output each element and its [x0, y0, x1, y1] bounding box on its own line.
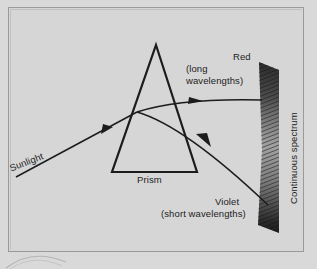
prism-dispersion-figure: Red (long wavelengths) Violet (short wav… [0, 0, 317, 269]
label-red-detail: (long wavelengths) [186, 63, 243, 86]
label-red: Red [233, 51, 251, 63]
label-violet-detail: (short wavelengths) [161, 208, 246, 220]
label-violet: Violet [215, 196, 239, 208]
label-prism: Prism [137, 174, 162, 186]
red-refracted-ray [137, 97, 262, 112]
incident-sunlight-ray [16, 112, 137, 177]
label-red-detail-line2: wavelengths) [186, 75, 243, 87]
diagram-vector-layer [0, 0, 317, 269]
label-red-detail-line1: (long [186, 63, 243, 75]
continuous-spectrum-band [240, 40, 292, 264]
label-continuous-spectrum: Continuous spectrum [288, 112, 300, 204]
prism-triangle [112, 45, 197, 172]
violet-refracted-ray [137, 112, 268, 205]
